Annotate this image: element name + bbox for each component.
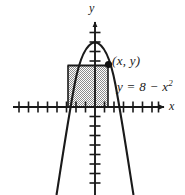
curve-equation-base: y = 8 − x (117, 79, 168, 94)
y-axis-label: y (89, 2, 95, 14)
point-coordinate-label: (x, y) (112, 54, 141, 67)
x-axis-label: x (169, 100, 175, 112)
coordinate-plot (0, 0, 185, 195)
curve-equation-label: y = 8 − x2 (117, 79, 173, 93)
curve-equation-exponent: 2 (168, 78, 173, 88)
parabola-rectangle-figure: y x (x, y) y = 8 − x2 (0, 0, 185, 195)
